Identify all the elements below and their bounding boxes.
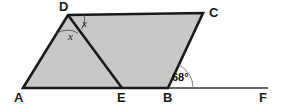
angle-label-ade: x [67, 30, 73, 42]
vertex-label-c: C [209, 5, 219, 20]
geometry-figure: A B C D E F x x 68° [0, 0, 281, 107]
vertex-label-b: B [163, 90, 172, 105]
angle-label-edc: x [81, 17, 87, 29]
vertex-label-d: D [59, 0, 68, 14]
geometry-canvas: A B C D E F x x 68° [0, 0, 281, 107]
vertex-label-f: F [259, 90, 267, 105]
vertex-label-a: A [14, 90, 24, 105]
angle-label-cbf: 68° [172, 71, 189, 83]
vertex-label-e: E [117, 90, 126, 105]
